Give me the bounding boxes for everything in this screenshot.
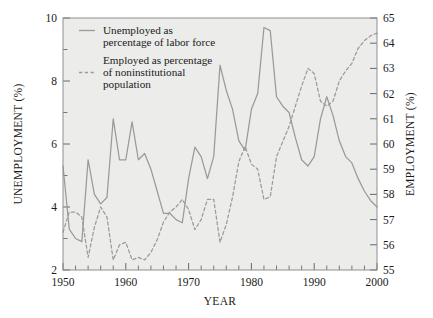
y-tick-label-right: 59 xyxy=(383,163,395,175)
legend-label-employment-line3: population xyxy=(103,78,151,90)
legend-label-unemployment-line2: percentage of labor force xyxy=(103,36,215,48)
y-tick-label-right: 55 xyxy=(383,264,395,276)
legend-label-unemployment-line1: Unemployed as xyxy=(103,24,173,36)
x-axis-title: YEAR xyxy=(204,295,237,307)
x-tick-label: 1950 xyxy=(52,276,75,288)
y-axis-left-labels: 246810 xyxy=(46,12,58,276)
y-tick-label-right: 58 xyxy=(383,188,395,200)
x-tick-label: 1960 xyxy=(114,276,137,288)
legend-label-employment-line1: Employed as percentage xyxy=(103,54,212,66)
y-tick-label-left: 8 xyxy=(51,75,57,87)
x-tick-label: 1980 xyxy=(240,276,263,288)
y-axis-right-labels: 5556575859606162636465 xyxy=(383,12,395,276)
legend-label-employment-line2: of noninstitutional xyxy=(103,66,185,78)
y-tick-label-right: 60 xyxy=(383,138,395,150)
y-tick-label-left: 6 xyxy=(51,138,57,150)
y-axis-right-title: EMPLOYMENT (%) xyxy=(404,92,417,196)
y-tick-label-left: 10 xyxy=(46,12,58,24)
chart-container: 246810 5556575859606162636465 1950196019… xyxy=(0,0,433,318)
y-tick-label-left: 4 xyxy=(51,201,57,213)
economic-indicators-chart: 246810 5556575859606162636465 1950196019… xyxy=(0,0,433,318)
y-tick-label-right: 57 xyxy=(383,214,395,226)
y-tick-label-left: 2 xyxy=(51,264,57,276)
y-tick-label-right: 62 xyxy=(383,88,395,100)
y-tick-label-right: 64 xyxy=(383,37,395,49)
y-axis-left-title: UNEMPLOYMENT (%) xyxy=(12,83,25,204)
y-tick-label-right: 56 xyxy=(383,239,395,251)
x-axis-labels: 195019601970198019902000 xyxy=(52,276,389,288)
y-tick-label-right: 61 xyxy=(383,113,395,125)
x-tick-label: 1970 xyxy=(177,276,200,288)
y-tick-label-right: 63 xyxy=(383,62,395,74)
x-tick-label: 1990 xyxy=(303,276,326,288)
x-tick-label: 2000 xyxy=(366,276,389,288)
y-tick-label-right: 65 xyxy=(383,12,395,24)
